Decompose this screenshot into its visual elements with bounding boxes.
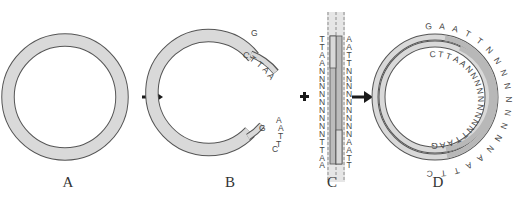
sequence-base: N xyxy=(475,87,486,95)
sequence-base: N xyxy=(472,78,484,87)
b-top-g: G xyxy=(251,28,258,38)
sequence-base: N xyxy=(498,68,510,77)
sequence-base: N xyxy=(502,82,513,90)
sequence-base: N xyxy=(493,133,505,143)
sequence-base: T xyxy=(453,165,461,176)
sequence-base: T xyxy=(474,35,484,46)
label-b: B xyxy=(225,174,235,191)
sequence-base: A xyxy=(475,153,486,165)
label-d: D xyxy=(433,174,444,191)
sequence-base: N xyxy=(492,56,504,67)
arrow-icon xyxy=(352,91,373,103)
sequence-base: N xyxy=(475,103,486,111)
panel-d-recombinant-plasmid: GAATTNNNNNNNNNAATTC CTTAANNNNNNNNNTTAAG xyxy=(375,21,514,179)
label-c: C xyxy=(327,174,337,191)
sequence-base: G xyxy=(425,21,432,32)
sequence-base: T xyxy=(445,51,453,62)
panel-c-insert: TTAANNNNNNNNNTTAA AATTNNNNNNNNNAATT xyxy=(319,12,352,182)
sequence-base: N xyxy=(504,96,514,102)
sequence-base: A xyxy=(451,23,460,34)
panel-b-linearized-plasmid: G C T T A A G A A T T C xyxy=(152,28,284,154)
sequence-base: T xyxy=(346,160,351,170)
sequence-base: A xyxy=(439,21,446,32)
svg-text:C: C xyxy=(272,144,278,154)
panel-a-plasmid xyxy=(8,40,122,154)
sequence-base: A xyxy=(464,160,474,172)
sequence-base: N xyxy=(502,109,513,117)
plus-icon xyxy=(300,92,309,101)
sequence-base: N xyxy=(485,143,497,154)
sequence-base: T xyxy=(438,49,444,60)
sequence-base: N xyxy=(476,96,486,102)
sequence-base: A xyxy=(319,160,325,170)
sequence-base: C xyxy=(429,49,436,59)
label-a: A xyxy=(63,174,74,191)
sequence-base: T xyxy=(463,28,472,39)
cloning-diagram: G C T T A A G A A T T C TT xyxy=(0,0,514,197)
svg-text:G: G xyxy=(259,123,266,133)
sequence-base: G xyxy=(431,141,438,151)
sequence-base: N xyxy=(484,44,496,55)
sequence-base: N xyxy=(499,121,511,130)
